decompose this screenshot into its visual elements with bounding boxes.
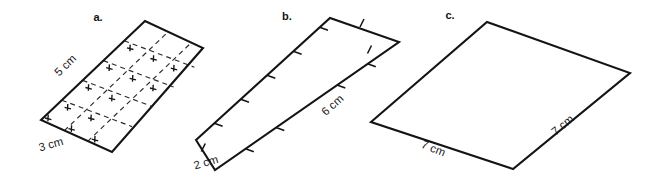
figure-b-outline xyxy=(196,18,399,170)
figure-c-dimension-7cm-right: 7 cm xyxy=(549,112,576,137)
cross-mark xyxy=(65,104,71,111)
figure-c-outline xyxy=(371,22,630,169)
edge-tick xyxy=(246,149,254,152)
cross-mark xyxy=(150,85,156,92)
edge-tick xyxy=(241,99,249,102)
cross-mark xyxy=(106,64,112,71)
edge-tick xyxy=(368,46,372,54)
figure-b-group: b. 2 cm 6 cm xyxy=(192,10,399,171)
grid-line-row-1 xyxy=(64,32,168,131)
cross-mark xyxy=(130,75,136,82)
grid-line-col-4 xyxy=(124,41,194,67)
figure-a-dimension-3cm: 3 cm xyxy=(37,135,64,153)
grid-line-col-3 xyxy=(103,61,173,87)
cross-mark xyxy=(171,65,177,72)
edge-tick xyxy=(320,27,328,30)
figure-b-label: b. xyxy=(282,10,292,22)
cross-mark xyxy=(68,125,74,132)
edge-tick xyxy=(276,128,284,131)
cross-mark xyxy=(88,115,94,122)
cross-mark xyxy=(150,55,156,62)
grid-line-row-2 xyxy=(88,42,192,141)
parallelograms-diagram: a. xyxy=(0,0,657,178)
figure-a-label: a. xyxy=(93,11,102,23)
cross-mark xyxy=(109,95,115,102)
figure-c-label: c. xyxy=(445,9,454,21)
edge-tick xyxy=(214,123,222,126)
figure-a-group: a. xyxy=(37,11,203,153)
cross-mark xyxy=(127,45,133,52)
figure-b-edge-ticks xyxy=(201,19,375,152)
cross-mark xyxy=(85,84,91,91)
figure-a-dimension-5cm: 5 cm xyxy=(52,52,78,78)
edge-tick xyxy=(368,64,376,67)
edge-tick xyxy=(293,51,301,54)
cross-mark xyxy=(92,136,98,143)
edge-tick xyxy=(267,75,275,78)
figure-c-dimension-7cm-left: 7 cm xyxy=(420,138,448,158)
edge-tick xyxy=(337,85,345,88)
figure-sheet: a. xyxy=(0,0,657,178)
edge-tick xyxy=(360,19,364,27)
figure-c-group: c. 7 cm 7 cm xyxy=(371,9,630,169)
figure-a-outline xyxy=(41,21,203,152)
